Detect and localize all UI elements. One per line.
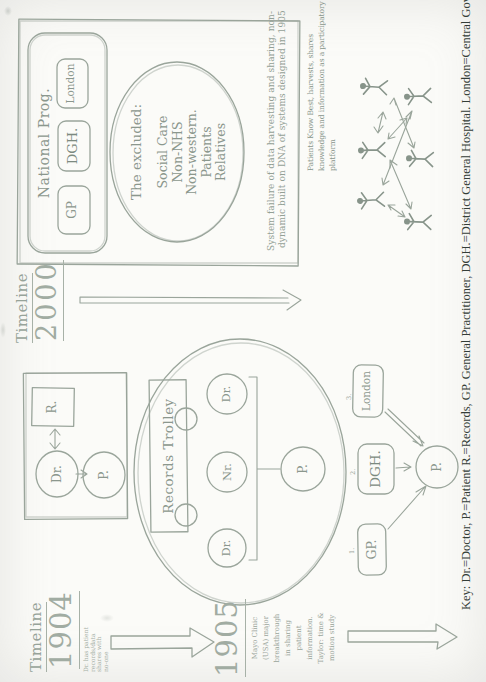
year-1904: 1904 [44, 591, 80, 669]
sketch-page: Timeline 1904 Dr. has patient records/da… [0, 0, 486, 682]
stick-figure-icon [404, 87, 432, 104]
doctor-label-1904: Dr. [50, 452, 64, 496]
excluded-item: Non-western. [185, 62, 200, 242]
people-network [356, 78, 433, 230]
system-failure-line-2: dynamic built on DNA of systems designed… [277, 10, 287, 248]
arrow-gp-to-patient-icon [388, 486, 426, 529]
excluded-heading: The excluded: [128, 62, 144, 242]
arrow-2000-icon [80, 290, 301, 310]
excluded-item: Non-NHS [171, 62, 186, 242]
excluded-item: Social Care [156, 62, 171, 242]
stick-figure-icon [404, 213, 432, 230]
trolley-wheel-icon [175, 504, 197, 526]
note-1904: Dr. has patient records/data shares with… [83, 627, 109, 672]
arrow-1905-onward-icon [348, 624, 457, 649]
excluded-list: Social Care Non-NHS Non-western. Patient… [156, 62, 229, 242]
records-label: R. [45, 388, 59, 426]
gp-label: GP. [364, 524, 379, 575]
patient-label-flow: P. [430, 447, 444, 487]
stick-figure-icon [359, 78, 387, 96]
note-1905: Mayo Clinic (USA) major breakthrough in … [250, 594, 338, 682]
flow-num-3: 3. [345, 394, 353, 400]
stick-figure-icon [358, 142, 386, 159]
year-1905: 1905 [210, 599, 246, 677]
records-trolley-label: Records Trolley [160, 381, 176, 531]
key-legend: Key: Dr.=Doctor, P.=Patient R.=Records, … [459, 0, 474, 610]
pkb-note: Patients Know Best, harvests, shares kno… [305, 1, 338, 171]
excluded-item: Patients [200, 62, 215, 242]
doctor-right-label: Dr. [220, 374, 233, 414]
stick-figure-icon [356, 191, 384, 209]
box-1904 [23, 373, 127, 520]
dgh-label: DGH. [367, 444, 383, 494]
arrow-doctor-records-icon [50, 429, 60, 449]
bracket [249, 377, 280, 560]
gp-2000-label: GP [65, 186, 79, 234]
doctor-left-label: Dr. [220, 528, 233, 568]
dgh-2000-label: DGH. [65, 121, 80, 171]
london-label: London [360, 365, 372, 417]
flow-num-1: 1. [348, 548, 356, 554]
rotated-drawing: Timeline 1904 Dr. has patient records/da… [0, 0, 486, 682]
patient-label-1905: P. [296, 449, 310, 489]
patient-label-1904: P. [97, 453, 111, 497]
arrow-london-to-patient-icon [385, 409, 424, 446]
system-failure-line-1: System failure of data harvesting and sh… [266, 11, 276, 251]
stick-figure-icon [406, 150, 434, 167]
flow-num-2: 2. [349, 469, 357, 475]
timeline-heading-2000: Timeline [13, 273, 33, 343]
excluded-item: Relatives [214, 62, 229, 242]
london-2000-label: London [64, 59, 76, 108]
year-2000: 2000 [31, 260, 64, 341]
arrow-1904-to-1905-icon [111, 628, 214, 657]
arrow-dgh-to-patient-icon [396, 463, 411, 471]
nurse-label: Nr. [220, 452, 234, 492]
national-prog-title: National Prog. [36, 33, 52, 253]
